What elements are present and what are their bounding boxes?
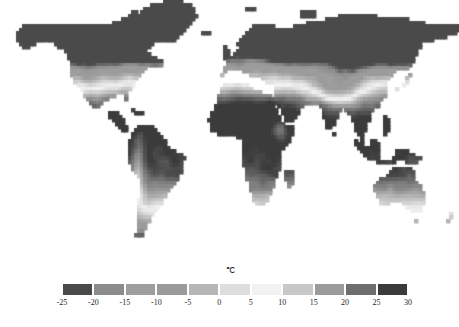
colorbar-tick-label: 5	[249, 297, 253, 308]
colorbar: ℃ -25-20-15-10-5051015202530	[0, 262, 459, 322]
colorbar-tick-label: 15	[310, 297, 318, 308]
colorbar-segment	[156, 283, 187, 296]
colorbar-segment	[282, 283, 313, 296]
colorbar-segment	[314, 283, 345, 296]
colorbar-segment	[251, 283, 282, 296]
colorbar-segment	[345, 283, 376, 296]
colorbar-unit-text: ℃	[226, 266, 235, 275]
temperature-heatmap-canvas	[0, 0, 459, 250]
colorbar-segment	[188, 283, 219, 296]
world-temperature-map	[0, 0, 459, 250]
colorbar-tick-label: -25	[57, 297, 68, 308]
colorbar-tick-label: 25	[373, 297, 381, 308]
colorbar-tick-label: -20	[88, 297, 99, 308]
colorbar-unit-label: ℃	[0, 266, 459, 276]
colorbar-tick-label: 30	[404, 297, 412, 308]
colorbar-tick-label: 20	[341, 297, 349, 308]
colorbar-tick-label: -10	[151, 297, 162, 308]
colorbar-segment	[93, 283, 124, 296]
colorbar-tick-labels: -25-20-15-10-5051015202530	[0, 297, 459, 311]
colorbar-tick-label: -5	[184, 297, 191, 308]
colorbar-segment	[219, 283, 250, 296]
figure-root: (c) ℃ -25-20-15-10-5051015202530	[0, 0, 459, 327]
colorbar-tick-label: 0	[217, 297, 221, 308]
colorbar-segment	[62, 283, 93, 296]
colorbar-tick-label: -15	[120, 297, 131, 308]
colorbar-gradient-strip	[62, 283, 408, 296]
colorbar-segment	[377, 283, 408, 296]
colorbar-segment	[125, 283, 156, 296]
colorbar-tick-label: 10	[278, 297, 286, 308]
